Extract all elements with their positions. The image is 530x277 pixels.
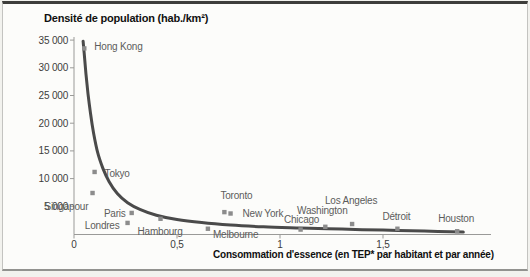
data-point-houston [455, 229, 459, 233]
data-point-label-new-york: New York [243, 208, 285, 219]
data-point-label-toronto: Toronto [220, 190, 253, 201]
data-point-label-los-angeles: Los Angeles [325, 195, 377, 206]
data-point-label-hong-kong: Hong Kong [94, 41, 142, 52]
data-point-hambourg [158, 217, 162, 221]
x-tick-label: 0 [71, 239, 77, 250]
data-point-new-york [228, 211, 232, 215]
data-point-singapour [90, 191, 94, 195]
trend-curve [83, 41, 463, 232]
data-point-toronto [222, 210, 226, 214]
y-tick-label: 25 000 [39, 90, 69, 101]
x-axis-title: Consommation d'essence (en TEP* par habi… [213, 249, 494, 260]
chart-canvas: 5 00010 00015 00020 00025 00030 00035 00… [0, 0, 530, 277]
data-point-melbourne [206, 227, 210, 231]
data-point-label-melbourne: Melbourne [213, 229, 259, 240]
data-point-d-troit [395, 227, 399, 231]
x-tick-label: 0,5 [170, 239, 184, 250]
data-point-label-paris: Paris [104, 208, 126, 219]
data-point-londres [125, 221, 129, 225]
x-tick-label: 1,5 [376, 239, 390, 250]
data-point-label-londres: Londres [85, 220, 120, 231]
y-tick-label: 15 000 [39, 145, 69, 156]
y-tick-label: 10 000 [39, 173, 69, 184]
data-point-label-tokyo: Tokyo [105, 168, 131, 179]
data-point-hong-kong [82, 46, 86, 50]
data-point-tokyo [92, 170, 96, 174]
data-point-los-angeles [350, 222, 354, 226]
data-point-paris [129, 211, 133, 215]
data-point-label-singapour: Singapour [45, 201, 90, 212]
data-point-label-d-troit: Détroit [382, 211, 410, 222]
data-point-label-hambourg: Hambourg [138, 226, 183, 237]
y-tick-label: 35 000 [39, 35, 69, 46]
data-point-chicago [298, 227, 302, 231]
data-point-washington [323, 225, 327, 229]
figure: Densité de population (hab./km²) 5 00010… [0, 0, 530, 277]
data-point-label-houston: Houston [438, 213, 474, 224]
data-point-label-washington: Washington [297, 205, 347, 216]
x-tick-label: 1 [277, 239, 283, 250]
y-tick-label: 20 000 [39, 118, 69, 129]
y-tick-label: 30 000 [39, 62, 69, 73]
